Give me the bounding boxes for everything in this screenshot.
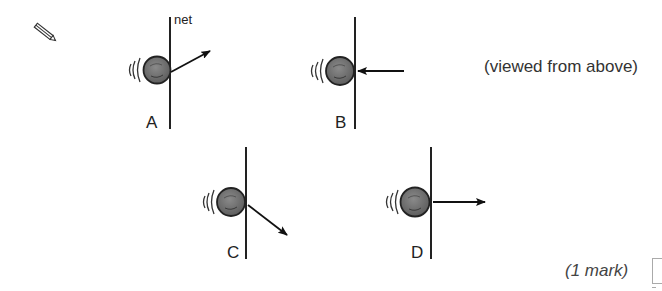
ball [217,188,245,216]
answer-box[interactable] [652,258,662,284]
ball [144,57,171,84]
option-a-diagram[interactable] [130,17,211,129]
option-c-label[interactable]: C [227,244,239,261]
motion-lines [312,59,324,83]
option-a-label[interactable]: A [146,114,157,131]
option-b-diagram[interactable] [312,17,405,129]
ball [401,188,430,217]
option-d-label[interactable]: D [411,244,423,261]
ball [326,57,354,85]
motion-lines [204,190,215,214]
motion-lines [387,190,399,214]
marks-label: (1 mark) [565,262,628,279]
option-d-diagram[interactable] [387,147,486,259]
option-c-diagram[interactable] [204,147,288,259]
motion-lines [130,58,141,82]
option-b-label[interactable]: B [335,114,346,131]
velocity-arrow [248,205,287,235]
velocity-arrow [171,51,210,72]
view-caption: (viewed from above) [484,58,638,75]
answer-box-edge [652,287,656,291]
net-label: net [174,13,192,26]
